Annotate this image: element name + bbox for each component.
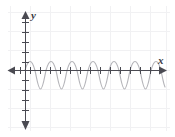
coordinate-plane: y x — [0, 0, 175, 137]
x-axis-arrow-left — [8, 67, 16, 75]
y-axis-arrow-down — [22, 121, 30, 130]
x-axis-label: x — [157, 54, 164, 66]
graph-figure: y x — [0, 0, 175, 137]
y-axis-label: y — [29, 9, 36, 21]
sine-curve — [25, 62, 165, 90]
x-axis-arrow-right — [159, 67, 167, 75]
